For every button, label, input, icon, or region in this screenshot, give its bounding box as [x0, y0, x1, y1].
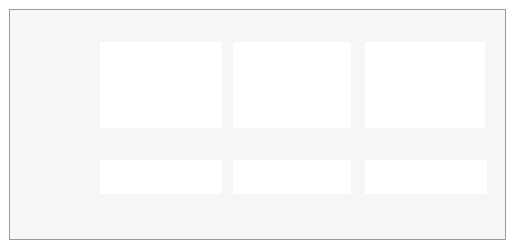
histogram-no-skew	[233, 42, 351, 128]
boxplot-negative-skew	[365, 160, 487, 194]
boxplot-no-skew	[233, 160, 351, 194]
boxplot-positive-skew	[100, 160, 222, 194]
histogram-negative-skew	[365, 42, 485, 128]
histogram-positive-skew	[100, 42, 222, 128]
